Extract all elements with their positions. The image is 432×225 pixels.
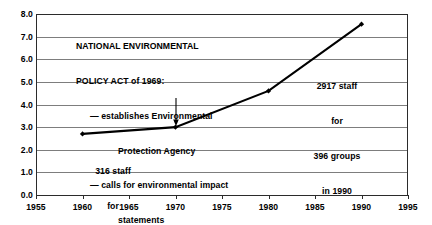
annotation-nepa-line-3: — establishes Environmental bbox=[76, 111, 228, 123]
annotation-1960-line-1: 316 staff bbox=[78, 166, 148, 178]
annotation-1990-line-4: in 1990 bbox=[300, 186, 374, 198]
annotation-1990-line-1: 2917 staff bbox=[300, 81, 374, 93]
annotation-1990-line-3: 396 groups bbox=[300, 151, 374, 163]
annotation-1960: 316 staff for 119 groups in 1960 bbox=[78, 143, 148, 225]
annotation-1990-line-2: for bbox=[300, 116, 374, 128]
line-chart: 0.01.02.03.04.05.06.07.08.0 195519601965… bbox=[0, 0, 432, 225]
annotation-nepa-line-2: POLICY ACT of 1969: bbox=[76, 76, 228, 88]
annotation-1990: 2917 staff for 396 groups in 1990 bbox=[300, 58, 374, 220]
annotation-nepa-line-1: NATIONAL ENVIRONMENTAL bbox=[76, 41, 228, 53]
annotation-1960-line-2: for bbox=[78, 201, 148, 213]
